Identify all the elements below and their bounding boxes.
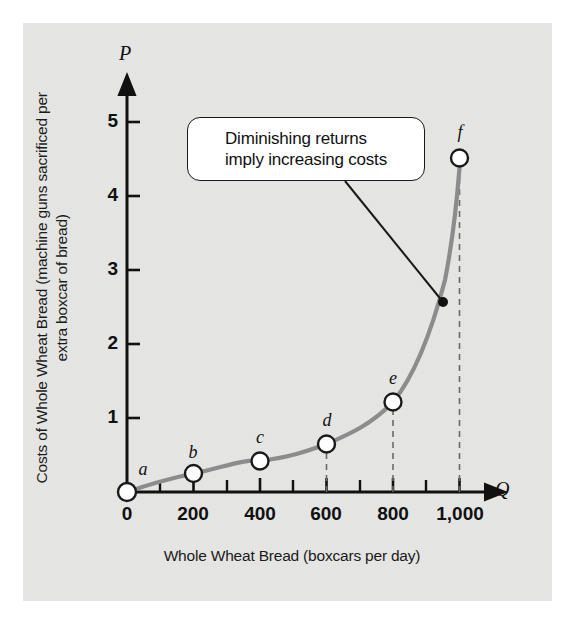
data-point-a[interactable] <box>118 483 136 501</box>
x-tick-label-1000: 1,000 <box>425 503 495 525</box>
figure-root: P Q 1 2 3 4 5 0 200 400 600 800 1,000 a … <box>0 0 575 623</box>
point-label-d: d <box>317 410 337 431</box>
data-point-f[interactable] <box>451 150 468 167</box>
cost-curve <box>127 168 460 492</box>
annotation-callout: Diminishing returns imply increasing cos… <box>187 117 425 181</box>
annotation-leader-line <box>345 181 443 302</box>
y-tick-label-2: 2 <box>96 332 118 354</box>
annotation-line-2: imply increasing costs <box>225 150 387 169</box>
x-axis-title: Whole Wheat Bread (boxcars per day) <box>112 546 472 566</box>
y-tick-label-5: 5 <box>96 110 118 132</box>
y-tick-label-4: 4 <box>96 184 118 206</box>
x-tick-label-600: 600 <box>291 503 361 525</box>
y-axis-ticks <box>127 122 140 418</box>
x-axis-minor-ticks <box>160 480 426 492</box>
point-label-a: a <box>133 459 153 480</box>
data-point-markers <box>118 150 468 502</box>
annotation-callout-text: Diminishing returns imply increasing cos… <box>221 128 391 170</box>
y-tick-label-3: 3 <box>96 258 118 280</box>
point-label-f: f <box>450 122 470 143</box>
x-tick-label-400: 400 <box>225 503 295 525</box>
x-tick-label-800: 800 <box>358 503 428 525</box>
point-label-e: e <box>383 368 403 389</box>
x-tick-label-200: 200 <box>158 503 228 525</box>
annotation-line-1: Diminishing returns <box>225 129 367 148</box>
data-point-e[interactable] <box>385 394 402 411</box>
data-point-b[interactable] <box>185 465 202 482</box>
point-label-b: b <box>183 442 203 463</box>
y-axis-symbol: P <box>119 42 131 65</box>
x-tick-label-0: 0 <box>92 503 162 525</box>
chart-plot-area <box>0 0 575 623</box>
y-axis-title: Costs of Whole Wheat Bread (machine guns… <box>32 88 72 488</box>
data-point-c[interactable] <box>252 453 269 470</box>
data-point-d[interactable] <box>318 436 335 453</box>
droplines <box>327 168 460 492</box>
x-axis-symbol: Q <box>495 478 509 501</box>
annotation-anchor-dot <box>438 297 448 307</box>
point-label-c: c <box>250 427 270 448</box>
y-tick-label-1: 1 <box>96 406 118 428</box>
